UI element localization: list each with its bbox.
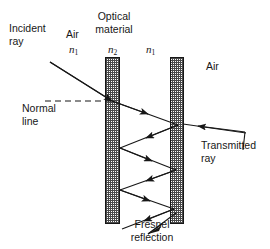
- incident-ray-label: Incidentray: [9, 22, 46, 47]
- n1-left-symbol: n: [69, 43, 75, 55]
- n2-symbol: n: [108, 43, 114, 55]
- incident-ray-line-full: [50, 62, 112, 101]
- n1-right-subscript: 1: [152, 48, 156, 57]
- optics-diagram: Incidentray Air n1 Opticalmaterial n2 n1…: [0, 0, 270, 249]
- fresnel-reflection-label: Fresnelreflection: [117, 218, 187, 243]
- air-right-label: Air: [206, 60, 219, 73]
- normal-line-label: Normalline: [22, 102, 56, 127]
- slab-left-body: [106, 58, 120, 224]
- n1-left-subscript: 1: [75, 48, 79, 57]
- n1-right-symbol: n: [146, 43, 152, 55]
- refractive-index-n1-right: n1: [146, 43, 155, 55]
- refractive-index-n1-left: n1: [69, 43, 78, 55]
- transmitted-ray-label: Transmittedray: [201, 139, 256, 164]
- transmitted-ray-leader: [198, 126, 245, 132]
- slab-right-body: [171, 58, 184, 224]
- slab-left: [106, 58, 120, 224]
- slab-right: [171, 58, 184, 224]
- n2-subscript: 2: [114, 48, 118, 57]
- bounce-seg-3-arrow: [120, 148, 152, 161]
- refractive-index-n2: n2: [108, 43, 117, 55]
- bounce-seg-5-arrow: [120, 190, 150, 201]
- air-left-label: Air: [66, 28, 79, 41]
- optical-material-label: Opticalmaterial: [85, 10, 143, 35]
- internal-bounce-path: [112, 101, 178, 229]
